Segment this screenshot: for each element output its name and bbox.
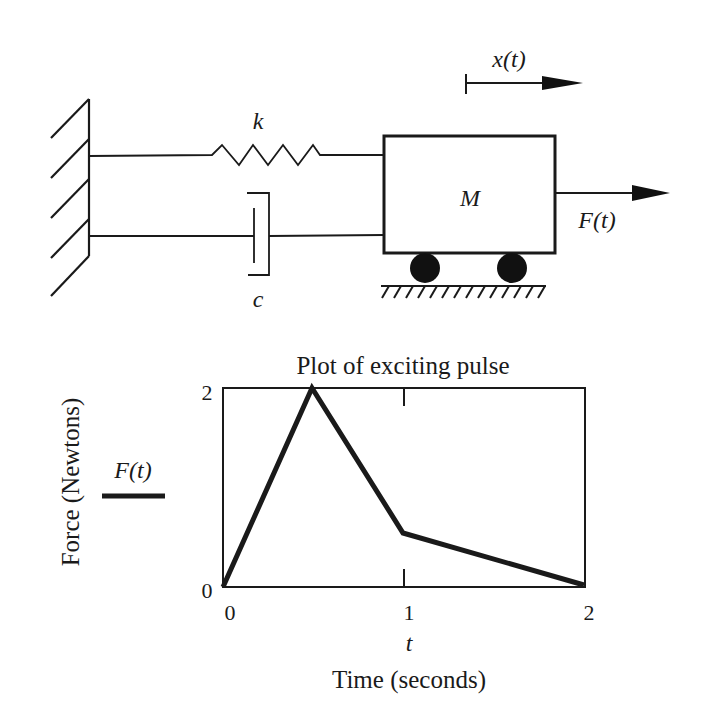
wheel-right [497,253,527,283]
pulse-plot: Plot of exciting pulse 2 0 0 1 2 t Time … [57,352,595,694]
wheel-left [410,253,440,283]
ground [381,286,546,298]
y-tick-0: 0 [202,578,213,603]
fixed-wall [51,99,89,296]
x-var-label: t [406,630,414,656]
x-tick-0: 0 [225,600,236,625]
plot-title: Plot of exciting pulse [296,352,509,379]
mass-label: M [459,185,482,211]
x-tick-1: 1 [404,600,415,625]
spring [89,145,384,165]
x-tick-2: 2 [584,600,595,625]
pulse-line [223,388,584,587]
x-axis-label: Time (seconds) [332,666,486,694]
plot-frame [223,388,585,587]
force-arrow [555,185,670,201]
force-label: F(t) [577,207,615,233]
displacement-label: x(t) [491,46,525,72]
damper-label: c [253,286,264,312]
displacement-arrow [466,74,583,94]
spring-label: k [253,108,264,134]
damper [89,193,384,275]
y-var-label: F(t) [113,457,151,483]
y-axis-label: Force (Newtons) [57,398,85,567]
mass-spring-damper-figure: k c M x(t) F(t) [0,0,708,727]
y-tick-2: 2 [202,380,213,405]
